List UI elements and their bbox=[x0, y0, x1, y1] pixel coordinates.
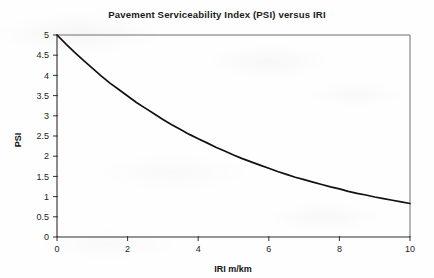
y-tick-label: 4.5 bbox=[36, 50, 49, 60]
x-tick-label: 6 bbox=[266, 244, 271, 254]
data-series-psi bbox=[57, 35, 410, 203]
x-tick-label: 10 bbox=[405, 244, 415, 254]
x-axis-ticks: 0246810 bbox=[54, 236, 415, 254]
y-tick-label: 3 bbox=[44, 111, 49, 121]
x-tick-label: 2 bbox=[125, 244, 130, 254]
chart-plot-area: 00.511.522.533.544.55 0246810 IRI m/km P… bbox=[0, 0, 434, 278]
y-tick-label: 2 bbox=[44, 151, 49, 161]
y-axis-ticks: 00.511.522.533.544.55 bbox=[36, 30, 58, 242]
x-tick-label: 8 bbox=[337, 244, 342, 254]
y-tick-label: 4 bbox=[44, 71, 49, 81]
y-tick-label: 2.5 bbox=[36, 131, 49, 141]
y-tick-label: 1 bbox=[44, 192, 49, 202]
axis-lines bbox=[57, 35, 410, 237]
x-tick-label: 4 bbox=[196, 244, 201, 254]
y-tick-label: 5 bbox=[44, 30, 49, 40]
x-axis-title: IRI m/km bbox=[214, 264, 252, 274]
plot-frame bbox=[57, 35, 410, 237]
y-tick-label: 1.5 bbox=[36, 172, 49, 182]
y-tick-label: 0 bbox=[44, 232, 49, 242]
y-tick-label: 3.5 bbox=[36, 91, 49, 101]
x-tick-label: 0 bbox=[54, 244, 59, 254]
chart-page: Pavement Serviceability Index (PSI) vers… bbox=[0, 0, 434, 278]
y-tick-label: 0.5 bbox=[36, 212, 49, 222]
y-axis-title: PSI bbox=[13, 133, 23, 148]
